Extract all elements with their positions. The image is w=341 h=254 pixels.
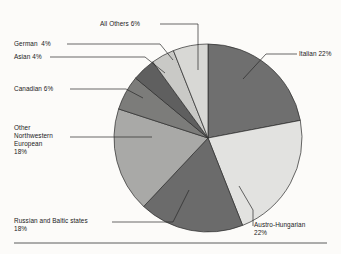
slice-label-russian-baltic-line1: Russian and Baltic states (14, 217, 88, 225)
slice-label-italian: Italian 22% (299, 50, 332, 58)
slice-label-canadian: Canadian 6% (14, 85, 53, 93)
slice-label-other-nw-european-line2: Northwestern (14, 132, 53, 140)
slice-label-other-nw-european-line3: European (14, 140, 42, 148)
pie-chart-svg (0, 0, 341, 254)
slice-label-russian-baltic-line2: 18% (14, 225, 27, 233)
slice-label-other-nw-european-line4: 18% (14, 148, 27, 156)
slice-label-asian: Asian 4% (14, 53, 42, 61)
slice-label-austro-hungarian-line1: Austro-Hungarian (254, 221, 305, 229)
pie-chart-figure: Italian 22% Austro-Hungarian 22% Russian… (0, 0, 341, 254)
slice-label-other-nw-european-line1: Other (14, 124, 30, 132)
slice-label-all-others: All Others 6% (100, 20, 140, 28)
slice-label-austro-hungarian-line2: 22% (254, 229, 267, 237)
pie-slices-group (114, 44, 302, 232)
slice-label-german: German 4% (14, 40, 51, 48)
